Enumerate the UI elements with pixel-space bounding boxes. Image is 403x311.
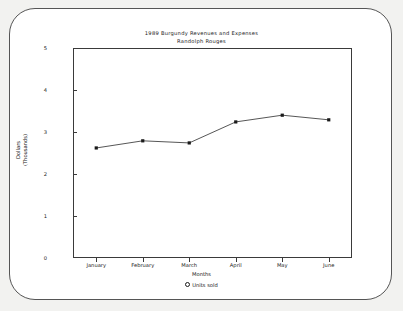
data-point-marker [141,139,144,142]
data-point-marker [281,114,284,117]
data-point-marker [188,141,191,144]
legend-marker-icon [185,282,190,287]
legend-label-units-sold: Units sold [192,282,218,288]
x-axis-title: Months [0,271,403,277]
line-chart: 1989 Burgundy Revenues and Expenses Rand… [0,0,403,311]
screenshot-root: 1989 Burgundy Revenues and Expenses Rand… [0,0,403,311]
data-point-marker [234,120,237,123]
chart-legend: Units sold [0,281,403,288]
series-line-units-sold [96,115,329,148]
data-series-layer [0,0,403,311]
series-markers-units-sold [95,114,331,150]
data-point-marker [327,118,330,121]
data-point-marker [95,146,98,149]
